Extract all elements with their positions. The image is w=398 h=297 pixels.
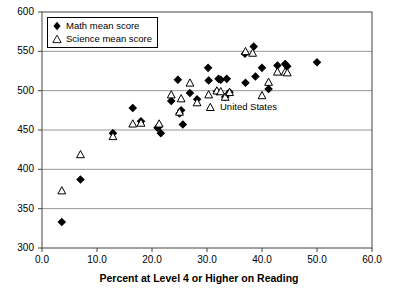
- x-axis-tick-label: 10.0: [77, 255, 117, 265]
- legend-label-science: Science mean score: [66, 33, 152, 46]
- legend-item-math: Math mean score: [52, 20, 152, 33]
- y-axis-tick-label: 600: [4, 7, 34, 17]
- data-point-math: [259, 64, 266, 71]
- x-axis-tick-label: 60.0: [352, 255, 392, 265]
- x-axis-title: Percent at Level 4 or Higher on Reading: [0, 272, 398, 284]
- scatter-chart: Math mean score Science mean score Unite…: [0, 0, 398, 297]
- data-point-science: [206, 103, 214, 110]
- data-point-math: [205, 77, 212, 84]
- data-point-math: [250, 43, 257, 50]
- chart-legend: Math mean score Science mean score: [47, 17, 158, 48]
- data-point-math: [314, 59, 321, 66]
- data-point-science: [205, 91, 213, 98]
- y-axis-tick-label: 500: [4, 86, 34, 96]
- data-point-math: [58, 219, 65, 226]
- data-point-math: [205, 64, 212, 71]
- data-point-science: [258, 91, 266, 98]
- annotation-united-states: United States: [220, 101, 277, 112]
- y-axis-tick-label: 550: [4, 46, 34, 56]
- data-point-math: [168, 97, 175, 104]
- data-point-science: [155, 120, 163, 127]
- data-point-science: [58, 187, 66, 194]
- data-point-science: [265, 78, 273, 85]
- legend-item-science: Science mean score: [52, 33, 152, 46]
- data-point-science: [274, 68, 282, 75]
- x-axis-tick-label: 20.0: [132, 255, 172, 265]
- y-axis-tick-label: 450: [4, 125, 34, 135]
- data-point-math: [174, 76, 181, 83]
- data-point-math: [77, 176, 84, 183]
- data-point-math: [265, 86, 272, 93]
- x-axis-tick-label: 40.0: [242, 255, 282, 265]
- data-point-science: [249, 49, 257, 56]
- data-point-math: [179, 121, 186, 128]
- legend-label-math: Math mean score: [66, 20, 139, 33]
- y-axis-tick-label: 350: [4, 204, 34, 214]
- x-axis-tick-label: 50.0: [297, 255, 337, 265]
- x-axis-tick-label: 30.0: [187, 255, 227, 265]
- data-point-math: [242, 79, 249, 86]
- data-point-science: [186, 79, 194, 86]
- x-axis-tick-label: 0.0: [22, 255, 62, 265]
- data-point-science: [167, 91, 175, 98]
- data-point-math: [129, 104, 136, 111]
- data-point-science: [177, 95, 185, 102]
- filled-diamond-icon: [52, 21, 62, 31]
- open-triangle-icon: [52, 34, 62, 44]
- data-point-science: [77, 150, 85, 157]
- y-axis-tick-label: 300: [4, 243, 34, 253]
- data-point-math: [252, 73, 259, 80]
- data-point-math: [223, 75, 230, 82]
- y-axis-tick-label: 400: [4, 164, 34, 174]
- data-point-science: [129, 120, 137, 127]
